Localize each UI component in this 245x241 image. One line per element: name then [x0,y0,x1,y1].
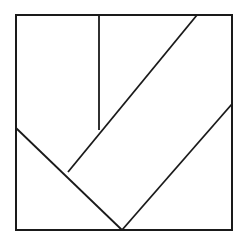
tangram-figure-root [0,0,245,241]
tangram-diagram [0,0,245,241]
piece-fills [16,15,232,230]
